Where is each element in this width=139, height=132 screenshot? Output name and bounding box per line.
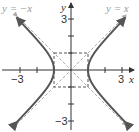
y-axis-label: y xyxy=(60,1,66,13)
hyperbola-plot: y = −x y = x y x −3 3 3 −3 xyxy=(0,0,139,132)
x-tick-label-3: 3 xyxy=(118,73,124,85)
y-tick-label-3: 3 xyxy=(61,13,67,25)
y-tick-label-neg3: −3 xyxy=(55,115,68,127)
asymptote-label-pos: y = x xyxy=(105,2,129,14)
x-tick-label-neg3: −3 xyxy=(11,73,24,85)
asymptote-label-neg: y = −x xyxy=(1,2,32,14)
x-axis-label: x xyxy=(128,73,134,85)
